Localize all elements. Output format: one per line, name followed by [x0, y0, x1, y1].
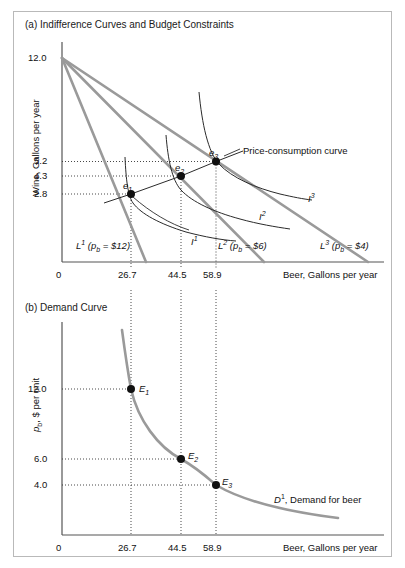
- point-label-e1: e1: [123, 181, 132, 193]
- budget-line-L2: [62, 58, 264, 262]
- panel-a-xtick-445: 44.5: [168, 270, 187, 280]
- panel-b-points: [127, 385, 220, 489]
- panel-b-title: (b) Demand Curve: [25, 303, 107, 313]
- indifference-curves: [125, 92, 312, 241]
- budget-label-L1: L1 (pb = $12): [76, 239, 130, 253]
- figure-graphics: .ax{stroke:#555;stroke-width:1.2;fill:no…: [0, 0, 405, 568]
- price-consumption-curve-annotation: Price-consumption curve: [243, 146, 348, 156]
- panel-a-origin-label: 0: [56, 270, 61, 280]
- indifference-curve-label-I3: I3: [308, 192, 315, 204]
- panel-b-ytick-4: 4.0: [34, 480, 47, 490]
- point-label-E3: E3: [222, 477, 232, 489]
- demand-curve-label: D1, Demand for beer: [274, 493, 361, 505]
- panel-b-x-axis-label: Beer, Gallons per year: [283, 543, 378, 553]
- point-label-e2: e2: [175, 163, 184, 175]
- panel-a-xtick-267: 26.7: [118, 270, 137, 280]
- demand-curve: [122, 330, 338, 518]
- panel-b-xtick-267: 26.7: [118, 543, 137, 553]
- point-label-E2: E2: [188, 451, 198, 463]
- panel-a-title: (a) Indifference Curves and Budget Const…: [25, 20, 234, 30]
- panel-b-origin-label: 0: [56, 543, 61, 553]
- panel-b-ytick-6: 6.0: [34, 454, 47, 464]
- budget-label-L2: L2 (pb = $6): [218, 239, 267, 253]
- panel-a-ytick-52: 5.2: [34, 156, 47, 166]
- panel-a-x-axis-label: Beer, Gallons per year: [283, 270, 378, 280]
- economics-figure: .ax{stroke:#555;stroke-width:1.2;fill:no…: [0, 0, 405, 568]
- panel-a-ytick-43: 4.3: [34, 171, 47, 181]
- point-E2: [177, 455, 185, 463]
- panel-a-xtick-589: 58.9: [203, 270, 222, 280]
- panel-b-ytick-12: 12.0: [28, 384, 47, 394]
- point-E3: [212, 481, 220, 489]
- panel-b-xtick-589: 58.9: [203, 543, 222, 553]
- indifference-curve-label-I1: I1: [191, 235, 198, 247]
- panel-a-ytick-12: 12.0: [28, 53, 47, 63]
- budget-label-L3: L3 (pb = $4): [320, 239, 369, 253]
- panel-a-y-axis-label: Wine, Gallons per year: [30, 99, 41, 196]
- point-E1: [127, 385, 135, 393]
- panel-a-ytick-28: 2.8: [34, 189, 47, 199]
- point-label-E1: E1: [139, 384, 149, 396]
- budget-line-L1: [62, 58, 146, 262]
- panel-a-leaders: [133, 197, 189, 230]
- panel-b-xtick-445: 44.5: [168, 543, 187, 553]
- point-label-e3: e3: [209, 148, 218, 160]
- indifference-curve-label-I2: I2: [259, 210, 266, 222]
